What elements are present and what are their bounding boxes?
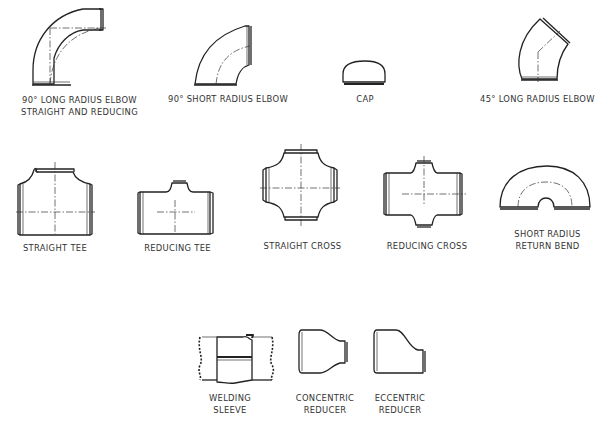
- label-concentric: CONCENTRIC: [290, 392, 360, 404]
- label-straight-cross: STRAIGHT CROSS: [260, 240, 345, 252]
- label-concentric-reducer: REDUCER: [290, 404, 360, 416]
- label-eccentric-reducer: REDUCER: [365, 404, 435, 416]
- label-90-short-radius-elbow: 90° SHORT RADIUS ELBOW: [158, 93, 298, 105]
- label-short-radius: SHORT RADIUS: [505, 228, 590, 240]
- fitting-45-long-radius-elbow: 45° LONG RADIUS ELBOW: [450, 0, 611, 120]
- label-straight-and-reducing: STRAIGHT AND REDUCING: [2, 106, 157, 118]
- fitting-straight-cross: STRAIGHT CROSS: [240, 140, 360, 260]
- label-welding: WELDING: [195, 392, 265, 404]
- label-90-long-radius-elbow: 90° LONG RADIUS ELBOW: [2, 94, 157, 106]
- label-reducing-tee: REDUCING TEE: [135, 242, 220, 254]
- fitting-90-long-radius-elbow: 90° LONG RADIUS ELBOW STRAIGHT AND REDUC…: [0, 0, 160, 120]
- fitting-welding-sleeve: WELDING SLEEVE: [180, 320, 290, 423]
- fitting-90-short-radius-elbow: 90° SHORT RADIUS ELBOW: [150, 0, 310, 120]
- fitting-cap: CAP: [300, 0, 450, 120]
- fitting-concentric-reducer: CONCENTRIC REDUCER: [290, 320, 370, 423]
- label-sleeve: SLEEVE: [195, 404, 265, 416]
- fitting-eccentric-reducer: ECCENTRIC REDUCER: [360, 320, 450, 423]
- label-straight-tee: STRAIGHT TEE: [15, 242, 95, 254]
- fitting-straight-tee: STRAIGHT TEE: [0, 150, 120, 260]
- label-cap: CAP: [345, 93, 385, 105]
- label-45-long-radius-elbow: 45° LONG RADIUS ELBOW: [480, 93, 590, 105]
- label-reducing-cross: REDUCING CROSS: [382, 240, 472, 252]
- fitting-reducing-tee: REDUCING TEE: [120, 150, 240, 260]
- fitting-reducing-cross: REDUCING CROSS: [370, 140, 490, 260]
- label-return-bend: RETURN BEND: [505, 240, 590, 252]
- label-eccentric: ECCENTRIC: [365, 392, 435, 404]
- fitting-short-radius-return-bend: SHORT RADIUS RETURN BEND: [480, 150, 611, 260]
